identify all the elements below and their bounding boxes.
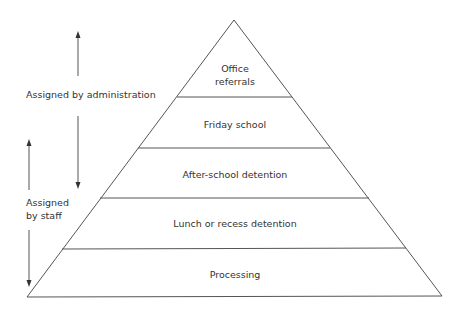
level-friday-school: Friday school xyxy=(204,118,266,131)
level-label-line1: Office xyxy=(215,62,255,75)
level-lunch-recess-detention: Lunch or recess detention xyxy=(173,217,296,230)
arrowhead-down-icon xyxy=(27,280,32,287)
arrowhead-up-icon xyxy=(27,139,32,146)
label-assigned-by-administration: Assigned by administration xyxy=(26,88,156,101)
level-processing: Processing xyxy=(210,268,261,281)
label-assigned-by-staff: Assigned by staff xyxy=(26,196,69,222)
pyramid-diagram xyxy=(0,0,466,312)
level-label-line2: referrals xyxy=(215,75,255,88)
divider-4 xyxy=(62,248,406,249)
staff-label-line1: Assigned xyxy=(26,196,69,209)
arrowhead-down-icon xyxy=(76,182,81,189)
arrowhead-up-icon xyxy=(76,31,81,38)
level-office-referrals: Office referrals xyxy=(215,62,255,88)
level-after-school-detention: After-school detention xyxy=(183,168,288,181)
staff-label-line2: by staff xyxy=(26,209,69,222)
